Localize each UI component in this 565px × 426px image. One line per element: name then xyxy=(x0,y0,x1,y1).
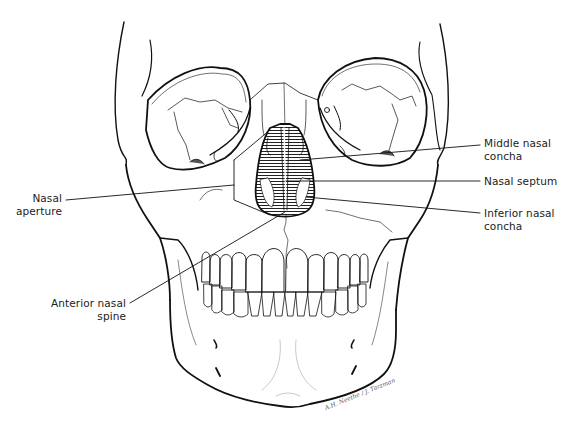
label-line: Inferior nasal xyxy=(484,207,555,220)
label-line: aperture xyxy=(0,205,62,218)
label-line: concha xyxy=(484,220,555,233)
label-line: Nasal septum xyxy=(484,175,557,188)
label-middle-nasal-concha: Middle nasal concha xyxy=(484,137,551,163)
label-line: Middle nasal xyxy=(484,137,551,150)
label-line: Anterior nasal xyxy=(30,297,126,310)
label-line: spine xyxy=(30,310,126,323)
label-nasal-septum: Nasal septum xyxy=(484,175,557,188)
label-nasal-aperture: Nasal aperture xyxy=(0,192,62,218)
label-line: concha xyxy=(484,150,551,163)
label-anterior-nasal-spine: Anterior nasal spine xyxy=(30,297,126,323)
label-inferior-nasal-concha: Inferior nasal concha xyxy=(484,207,555,233)
skull-diagram: Middle nasal concha Nasal septum Inferio… xyxy=(0,0,565,426)
skull-illustration xyxy=(0,0,565,426)
label-line: Nasal xyxy=(0,192,62,205)
